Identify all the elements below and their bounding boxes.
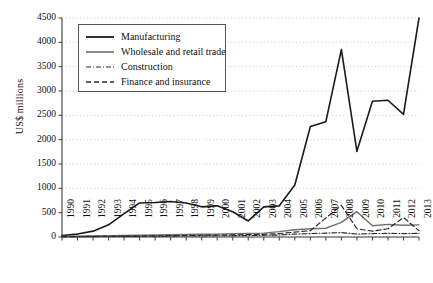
x-tick-label: 2000 bbox=[221, 199, 231, 243]
x-tick-label: 1995 bbox=[144, 199, 154, 243]
x-tick-label: 2007 bbox=[330, 199, 340, 243]
legend-item-finance: Finance and insurance bbox=[85, 74, 220, 89]
legend-swatch-construction bbox=[85, 62, 115, 72]
legend-swatch-wholesale bbox=[85, 47, 115, 57]
legend-swatch-manufacturing bbox=[85, 32, 115, 42]
legend-label-finance: Finance and insurance bbox=[121, 77, 210, 87]
x-tick-label: 1992 bbox=[97, 199, 107, 243]
x-tick-label: 1996 bbox=[159, 199, 169, 243]
x-tick-label: 2010 bbox=[376, 199, 386, 243]
x-tick-label: 1998 bbox=[190, 199, 200, 243]
x-tick-label: 1993 bbox=[113, 199, 123, 243]
x-tick-label: 2006 bbox=[314, 199, 324, 243]
legend-item-manufacturing: Manufacturing bbox=[85, 29, 220, 44]
x-tick-label: 2005 bbox=[299, 199, 309, 243]
legend-item-wholesale: Wholesale and retail trade bbox=[85, 44, 220, 59]
legend: Manufacturing Wholesale and retail trade… bbox=[78, 24, 226, 92]
x-tick-label: 2012 bbox=[407, 199, 417, 243]
x-tick-label: 2013 bbox=[423, 199, 433, 243]
x-tick-label: 2002 bbox=[252, 199, 262, 243]
x-tick-label: 2008 bbox=[345, 199, 355, 243]
x-tick-label: 2001 bbox=[237, 199, 247, 243]
x-tick-label: 1990 bbox=[66, 199, 76, 243]
x-tick-label: 1991 bbox=[82, 199, 92, 243]
x-tick-label: 2009 bbox=[361, 199, 371, 243]
x-tick-label: 1994 bbox=[128, 199, 138, 243]
x-tick-label: 1999 bbox=[206, 199, 216, 243]
legend-label-wholesale: Wholesale and retail trade bbox=[121, 47, 226, 57]
x-tick-label: 2003 bbox=[268, 199, 278, 243]
legend-label-construction: Construction bbox=[121, 62, 173, 72]
x-tick-label: 2011 bbox=[392, 199, 402, 243]
x-tick-label: 1997 bbox=[175, 199, 185, 243]
x-tick-label: 2004 bbox=[283, 199, 293, 243]
legend-item-construction: Construction bbox=[85, 59, 220, 74]
legend-swatch-finance bbox=[85, 77, 115, 87]
legend-label-manufacturing: Manufacturing bbox=[121, 32, 180, 42]
